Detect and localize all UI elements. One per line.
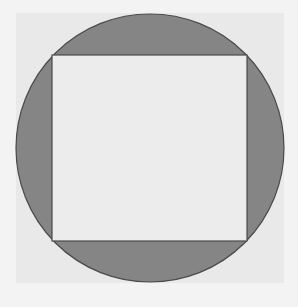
inscribed-square-diagram [0,0,298,307]
inscribed-square [52,55,247,241]
